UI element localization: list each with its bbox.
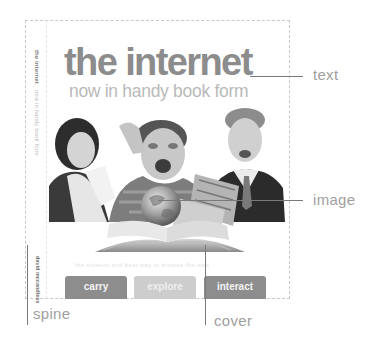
cover-title: the internet	[64, 42, 252, 82]
cover-subtitle: now in handy book form	[69, 81, 248, 101]
spine-divider	[46, 20, 47, 299]
spine-title: the internetnow in handy book form	[33, 50, 41, 156]
globe	[141, 186, 181, 226]
interact-button[interactable]: interact	[204, 276, 266, 299]
cover-callout-label: cover	[214, 312, 252, 329]
spine-callout-label: spine	[33, 305, 70, 322]
text-callout-label: text	[313, 66, 338, 83]
person-left	[49, 118, 115, 222]
spine-title-text: the internet	[34, 50, 40, 84]
explore-button[interactable]: explore	[134, 276, 196, 299]
image-callout-label: image	[313, 191, 355, 208]
text-callout-line	[250, 76, 303, 77]
cover-callout-line	[205, 245, 206, 325]
spine-subtitle-text: now in handy book form	[34, 90, 40, 156]
image-callout-line	[158, 200, 303, 201]
open-book	[95, 220, 245, 252]
spine-callout-line	[27, 245, 28, 325]
cover-tagline: the slowest and best way to browse the w…	[75, 262, 209, 268]
cover-photo	[49, 106, 285, 256]
carry-button[interactable]: carry	[65, 276, 127, 299]
spine-author: david mccandless	[35, 256, 41, 303]
